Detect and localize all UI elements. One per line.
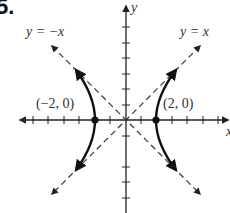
vertex-right-label: (2, 0) — [163, 96, 193, 112]
problem-number: 5. — [0, 0, 14, 20]
vertex-right-point — [152, 116, 159, 123]
vertex-left-label: (−2, 0) — [36, 96, 74, 112]
asymptote-pos-label: y = x — [180, 24, 209, 40]
vertex-left-point — [91, 116, 98, 123]
y-axis-label: y — [131, 0, 137, 16]
asymptote-neg-label: y = −x — [26, 24, 64, 40]
hyperbola-figure: 5. y = −x y = x y x (−2, 0) (2, 0) — [0, 0, 230, 213]
x-axis-label: x — [226, 124, 230, 140]
y-axis — [122, 6, 130, 213]
